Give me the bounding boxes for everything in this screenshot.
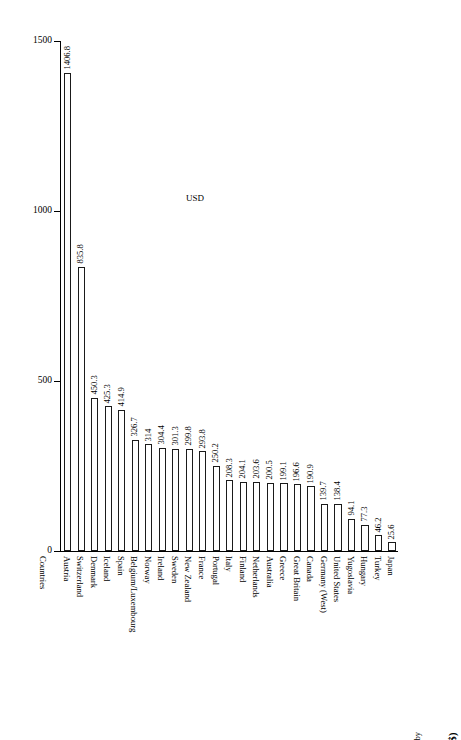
- bar-value: 203.6: [248, 461, 257, 480]
- bar-value: 326.7: [127, 420, 136, 439]
- bar: 190.9: [307, 486, 314, 551]
- x-tick-label: Norway: [143, 556, 152, 584]
- bar: 414.9: [118, 410, 125, 551]
- bar: 835.8: [78, 267, 85, 551]
- bar: 425.3: [105, 406, 112, 551]
- bar: 46.2: [375, 535, 382, 551]
- sources-line-1: Sources: Computed from OECD data quoted …: [412, 732, 423, 740]
- y-tick-label: 0: [10, 545, 52, 555]
- bar: 204.1: [240, 482, 247, 551]
- bar-value: 190.9: [302, 466, 311, 485]
- y-tick-label: 500: [10, 375, 52, 385]
- bar-value-label: 450.3: [89, 376, 98, 395]
- bar-value-label: 199.1: [279, 461, 288, 480]
- bar: 450.3: [91, 398, 98, 551]
- figure-caption: Figure 7.2. Recorded Tourism Receipts Pe…: [449, 732, 460, 740]
- x-tick-label: Austria: [62, 556, 71, 581]
- x-axis-tick-labels: AustriaSwitzerlandDenmarkIcelandSpainBel…: [60, 556, 398, 736]
- sources-note: Sources: Computed from OECD data quoted …: [412, 732, 435, 740]
- sources-line-2: Fremdenverkehr in Zahlen, and KSH, 1991.: [424, 732, 435, 740]
- bar: 326.7: [132, 440, 139, 551]
- bar-value-label: 196.6: [292, 462, 301, 481]
- bar-value-label: 414.9: [116, 388, 125, 407]
- bar-value: 25.6: [383, 526, 392, 541]
- x-tick-label: Denmark: [89, 556, 98, 588]
- y-tick-label: 1000: [10, 205, 52, 215]
- bar-value: 301.3: [167, 428, 176, 447]
- bar-value-label: 304.4: [157, 425, 166, 444]
- bar-value: 138.4: [329, 484, 338, 503]
- x-tick-label: Iceland: [103, 556, 112, 581]
- bar-value-label: 835.8: [76, 244, 85, 263]
- x-tick-label: Germany (West): [319, 556, 328, 613]
- bar: 299.8: [186, 449, 193, 551]
- bar-value: 77.3: [356, 509, 365, 524]
- bar-value: 299.8: [181, 429, 190, 448]
- x-tick-label: Hungary: [360, 556, 369, 586]
- bar-value-label: 190.9: [306, 464, 315, 483]
- bar-value: 196.6: [289, 464, 298, 483]
- bar-value-label: 203.6: [251, 459, 260, 478]
- bar-value-label: 250.2: [211, 444, 220, 463]
- bar-value-label: 94.1: [346, 501, 355, 516]
- bar-value: 94.1: [343, 503, 352, 518]
- bar-value-label: 200.5: [265, 461, 274, 480]
- bar: 138.4: [334, 504, 341, 551]
- chart-plot-area: USD 050010001500 1406.8835.8450.3425.341…: [0, 0, 400, 740]
- bar-value: 1406.8: [59, 48, 68, 72]
- bar-value: 208.3: [221, 460, 230, 479]
- x-axis-title: Countries: [38, 556, 48, 589]
- bar-value: 314: [140, 430, 149, 443]
- x-tick-label: Sweden: [170, 556, 179, 583]
- bar-value: 204.1: [235, 461, 244, 480]
- x-tick-label: Belgium/Luxembourg: [130, 556, 139, 632]
- bar-value: 200.5: [262, 463, 271, 482]
- bar: 77.3: [361, 525, 368, 551]
- bar-value-label: 301.3: [170, 426, 179, 445]
- bar-value-label: 314: [143, 428, 152, 441]
- bar-value: 139.7: [316, 483, 325, 502]
- bar: 25.6: [388, 542, 395, 551]
- y-tick-label: 1500: [10, 35, 52, 45]
- x-tick-label: Italy: [224, 556, 233, 572]
- x-tick-label: Netherlands: [251, 556, 260, 598]
- bar: 203.6: [253, 482, 260, 551]
- bar-value: 199.1: [275, 463, 284, 482]
- bar-value: 450.3: [86, 378, 95, 397]
- bar: 250.2: [213, 466, 220, 551]
- bar-value: 304.4: [154, 427, 163, 446]
- bar: 139.7: [321, 504, 328, 551]
- bar-value-label: 138.4: [333, 482, 342, 501]
- x-tick-label: Canada: [306, 556, 315, 582]
- bar: 304.4: [159, 448, 166, 551]
- bar-value: 835.8: [73, 246, 82, 265]
- bar-value-label: 326.7: [130, 418, 139, 437]
- bar: 200.5: [267, 483, 274, 551]
- bar-value-label: 139.7: [319, 481, 328, 500]
- bar-value-label: 208.3: [224, 458, 233, 477]
- bar: 94.1: [348, 519, 355, 551]
- x-tick-label: Japan: [387, 556, 396, 576]
- y-tick-mark: [54, 551, 60, 552]
- bar: 199.1: [280, 483, 287, 551]
- bar-value: 414.9: [113, 390, 122, 409]
- x-tick-label: France: [197, 556, 206, 579]
- x-tick-label: Australia: [265, 556, 274, 588]
- bar: 314: [145, 444, 152, 551]
- bar-value-label: 204.1: [238, 459, 247, 478]
- x-tick-label: Yugoslavia: [346, 556, 355, 594]
- x-tick-label: Switzerland: [76, 556, 85, 597]
- x-tick-label: New Zealand: [184, 556, 193, 602]
- x-tick-label: United States: [333, 556, 342, 602]
- bar: 301.3: [172, 449, 179, 551]
- x-tick-label: Spain: [116, 556, 125, 576]
- bar-value-label: 425.3: [103, 384, 112, 403]
- x-tick-label: Greece: [279, 556, 288, 580]
- x-tick-label: Ireland: [157, 556, 166, 580]
- bar-value: 46.2: [370, 519, 379, 534]
- bar-value-label: 25.6: [387, 524, 396, 539]
- bar: 1406.8: [64, 73, 71, 551]
- bar-value: 293.8: [194, 431, 203, 450]
- bar-value: 250.2: [208, 446, 217, 465]
- bar-value-label: 77.3: [360, 507, 369, 522]
